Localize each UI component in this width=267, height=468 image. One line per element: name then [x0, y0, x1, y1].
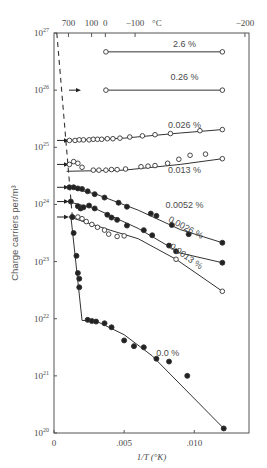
- series-label: 0.0 %: [156, 348, 179, 358]
- open-marker: [118, 136, 123, 141]
- filled-marker: [116, 200, 121, 205]
- x-tick-label: .010: [186, 438, 202, 448]
- open-marker: [220, 88, 225, 93]
- x-tick-label: 0: [52, 438, 57, 448]
- arrow-head-icon: [64, 215, 69, 219]
- filled-marker: [109, 325, 114, 330]
- filled-marker: [74, 253, 79, 258]
- open-marker: [104, 88, 109, 93]
- y-tick-label: 1022: [34, 313, 49, 324]
- open-marker: [168, 131, 173, 136]
- filled-marker: [150, 233, 155, 238]
- series-label: 0.026 %: [168, 120, 201, 130]
- open-marker: [203, 152, 208, 157]
- open-marker: [140, 134, 145, 139]
- filled-marker: [102, 321, 107, 326]
- filled-marker: [115, 217, 120, 222]
- open-marker: [67, 162, 72, 167]
- open-marker: [95, 225, 100, 230]
- open-marker: [84, 219, 89, 224]
- x-axis-title: 1/T (°K): [137, 452, 167, 462]
- open-marker: [220, 127, 225, 132]
- filled-marker: [92, 192, 97, 197]
- arrow-head-icon: [76, 88, 81, 92]
- chart: 0.005.0101/T (°K)10271026102510241023102…: [0, 0, 267, 468]
- filled-marker: [220, 240, 225, 245]
- open-marker: [102, 228, 107, 233]
- y-tick-label: 1026: [34, 84, 49, 95]
- open-marker: [76, 161, 81, 166]
- y-tick-label: 1023: [34, 256, 49, 267]
- filled-marker: [154, 213, 159, 218]
- filled-marker: [92, 206, 97, 211]
- filled-marker: [70, 215, 75, 220]
- filled-marker: [102, 195, 107, 200]
- open-marker: [106, 232, 111, 237]
- filled-marker: [141, 228, 146, 233]
- filled-marker: [94, 319, 99, 324]
- open-marker: [104, 50, 109, 55]
- filled-marker: [221, 426, 226, 431]
- filled-marker: [80, 187, 85, 192]
- open-marker: [80, 165, 85, 170]
- filled-marker: [124, 223, 129, 228]
- y-tick-label: 1027: [34, 27, 49, 38]
- filled-marker: [87, 203, 92, 208]
- filled-marker: [122, 338, 127, 343]
- open-marker: [188, 153, 193, 158]
- top-tick-label: −100: [126, 18, 145, 28]
- filled-marker: [68, 199, 73, 204]
- open-marker: [153, 132, 158, 137]
- y-axis-title: Charge carriers per/m³: [9, 185, 20, 281]
- open-marker: [80, 216, 85, 221]
- open-marker: [99, 137, 104, 142]
- open-marker: [67, 138, 72, 143]
- open-marker: [109, 167, 114, 172]
- open-marker: [122, 234, 127, 239]
- open-marker: [90, 222, 95, 227]
- open-marker: [174, 257, 179, 262]
- open-marker: [220, 289, 225, 294]
- filled-marker: [185, 373, 190, 378]
- series-label: 2.6 %: [173, 39, 196, 49]
- top-tick-label: 0: [103, 18, 108, 28]
- filled-marker: [131, 344, 136, 349]
- filled-marker: [220, 260, 225, 265]
- open-marker: [153, 163, 158, 168]
- filled-marker: [141, 345, 146, 350]
- top-tick-label: 100: [85, 18, 99, 28]
- filled-marker: [71, 231, 76, 236]
- open-marker: [105, 136, 110, 141]
- open-marker: [139, 164, 144, 169]
- filled-marker: [77, 276, 82, 281]
- filled-marker: [77, 285, 82, 290]
- series-label: 0.26 %: [170, 72, 198, 82]
- open-marker: [127, 135, 132, 140]
- open-marker: [97, 168, 102, 173]
- open-marker: [123, 167, 128, 172]
- filled-marker: [148, 211, 153, 216]
- y-tick-label: 1025: [34, 141, 49, 152]
- y-tick-label: 1021: [34, 370, 49, 381]
- open-marker: [115, 167, 120, 172]
- filled-marker: [124, 204, 129, 209]
- open-marker: [81, 138, 86, 143]
- open-marker: [146, 164, 151, 169]
- filled-marker: [81, 205, 86, 210]
- top-tick-label: −200: [236, 18, 255, 28]
- series-label: 0.0052 %: [165, 200, 203, 210]
- top-tick-label: 700: [62, 18, 76, 28]
- axis-labels: 0.005.0101/T (°K)10271026102510241023102…: [9, 18, 255, 462]
- x-tick-label: .005: [116, 438, 132, 448]
- y-tick-label: 1024: [34, 198, 49, 209]
- open-marker: [104, 168, 109, 173]
- y-tick-label: 1020: [34, 427, 49, 438]
- filled-marker: [167, 359, 172, 364]
- open-marker: [91, 168, 96, 173]
- open-marker: [111, 136, 116, 141]
- open-marker: [220, 156, 225, 161]
- filled-marker: [109, 215, 114, 220]
- open-marker: [177, 157, 182, 162]
- open-marker: [220, 50, 225, 55]
- filled-marker: [75, 271, 80, 276]
